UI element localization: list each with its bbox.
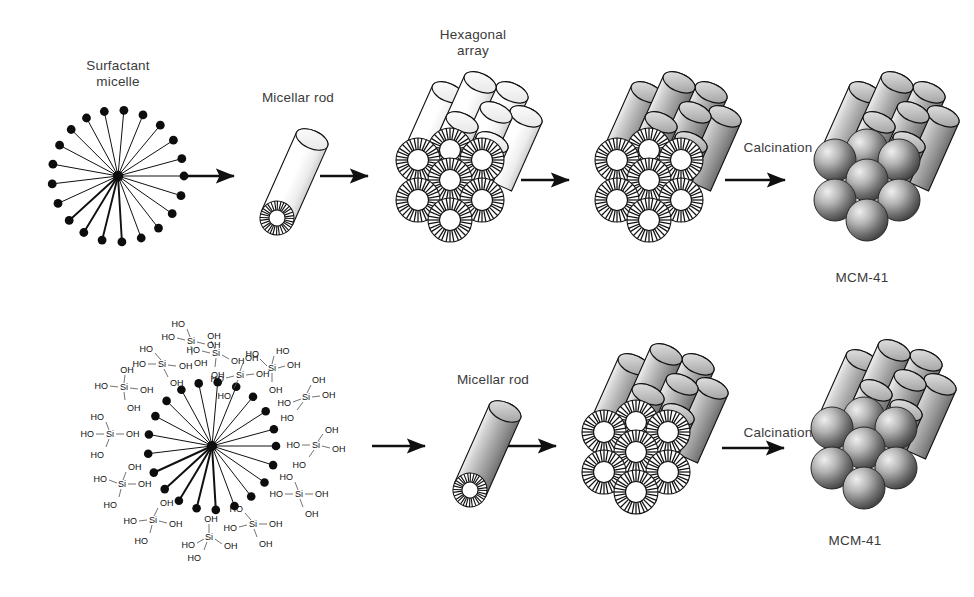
svg-text:HO: HO bbox=[172, 319, 186, 329]
svg-text:HO: HO bbox=[281, 413, 295, 423]
label-hexagonal-array: Hexagonal array bbox=[418, 27, 528, 59]
silicate-unit: Si HO HO OH HO bbox=[81, 412, 140, 460]
svg-text:HO: HO bbox=[182, 540, 196, 550]
label-micellar-rod-top: Micellar rod bbox=[243, 90, 353, 106]
svg-text:HO: HO bbox=[211, 374, 225, 384]
svg-text:Si: Si bbox=[106, 429, 114, 439]
mcm41-synthesis-figure: Surfactant micelle Micellar rod Hexagona… bbox=[0, 0, 974, 597]
svg-text:OH: OH bbox=[245, 353, 259, 363]
svg-text:OH: OH bbox=[315, 489, 329, 499]
svg-text:OH: OH bbox=[332, 444, 346, 454]
silicate-unit: Si OH HO OH HO bbox=[278, 375, 336, 423]
arrow-group bbox=[186, 176, 785, 448]
svg-text:Si: Si bbox=[212, 348, 220, 358]
silicate-coated-bundle-glyph bbox=[595, 67, 744, 242]
svg-text:OH: OH bbox=[138, 479, 152, 489]
svg-text:HO: HO bbox=[224, 523, 238, 533]
pore-spheres bbox=[811, 397, 917, 509]
label-calcination-bottom: Calcination bbox=[723, 425, 833, 441]
svg-text:HO: HO bbox=[135, 536, 149, 546]
svg-text:OH: OH bbox=[287, 360, 301, 370]
svg-text:OH: OH bbox=[269, 519, 283, 529]
silicate-unit: Si HO HO OH OH bbox=[162, 319, 221, 368]
svg-text:HO: HO bbox=[133, 359, 147, 369]
svg-text:Si: Si bbox=[120, 382, 128, 392]
svg-text:Si: Si bbox=[158, 359, 166, 369]
svg-text:HO: HO bbox=[218, 391, 232, 401]
svg-text:OH: OH bbox=[140, 385, 154, 395]
silicate-unit: Si OH HO OH HO bbox=[211, 353, 270, 401]
svg-text:OH: OH bbox=[207, 340, 221, 350]
svg-text:OH: OH bbox=[160, 498, 174, 508]
svg-text:Si: Si bbox=[149, 515, 157, 525]
svg-text:HO: HO bbox=[278, 398, 292, 408]
svg-text:OH: OH bbox=[211, 370, 225, 380]
label-mcm41-bottom: MCM-41 bbox=[805, 533, 905, 549]
silicate-units-group: Si HO HO OH OH Si OH HO OH OH Si HO OH bbox=[81, 319, 346, 563]
svg-text:OH: OH bbox=[170, 378, 184, 388]
svg-text:HO: HO bbox=[270, 489, 284, 499]
svg-text:OH: OH bbox=[259, 539, 273, 549]
svg-text:Si: Si bbox=[187, 336, 195, 346]
silicate-unit: Si HO HO OH OH bbox=[133, 344, 193, 388]
svg-text:Si: Si bbox=[249, 519, 257, 529]
svg-text:OH: OH bbox=[312, 375, 326, 385]
silicate-unit: Si OH HO OH HO bbox=[287, 425, 346, 470]
hexagonal-array-glyph bbox=[396, 67, 545, 242]
svg-text:Si: Si bbox=[268, 363, 276, 373]
svg-text:OH: OH bbox=[120, 365, 134, 375]
svg-text:Si: Si bbox=[295, 489, 303, 499]
svg-text:Si: Si bbox=[205, 532, 213, 542]
svg-text:Si: Si bbox=[302, 392, 310, 402]
silicate-unit: Si OH HO OH OH bbox=[187, 331, 245, 380]
silicate-micelle-glyph bbox=[144, 378, 280, 514]
svg-text:HO: HO bbox=[104, 500, 118, 510]
svg-text:Si: Si bbox=[312, 440, 320, 450]
svg-text:HO: HO bbox=[230, 504, 244, 514]
svg-text:HO: HO bbox=[276, 346, 290, 356]
label-micellar-rod-bottom: Micellar rod bbox=[438, 372, 548, 388]
svg-text:OH: OH bbox=[231, 356, 245, 366]
svg-text:HO: HO bbox=[188, 553, 202, 563]
silicate-unit: Si OH HO OH HO bbox=[124, 498, 183, 546]
svg-text:OH: OH bbox=[325, 425, 339, 435]
svg-text:OH: OH bbox=[128, 462, 142, 472]
svg-text:OH: OH bbox=[169, 519, 183, 529]
svg-text:OH: OH bbox=[204, 514, 218, 524]
svg-text:HO: HO bbox=[81, 429, 95, 439]
svg-text:OH: OH bbox=[322, 390, 336, 400]
mcm41-glyph-bottom bbox=[811, 335, 959, 509]
svg-text:OH: OH bbox=[126, 429, 140, 439]
svg-text:HO: HO bbox=[246, 349, 260, 359]
svg-text:Si: Si bbox=[118, 479, 126, 489]
svg-text:HO: HO bbox=[91, 412, 105, 422]
svg-text:OH: OH bbox=[207, 331, 221, 341]
svg-text:OH: OH bbox=[194, 358, 208, 368]
svg-text:OH: OH bbox=[305, 509, 319, 519]
silicate-unit: Si OH HO OH HO bbox=[182, 514, 238, 563]
silicate-unit: Si HO HO OH OH bbox=[224, 504, 283, 549]
svg-text:OH: OH bbox=[256, 369, 270, 379]
svg-text:OH: OH bbox=[127, 403, 141, 413]
surfactant-micelle-glyph bbox=[48, 106, 189, 246]
svg-text:HO: HO bbox=[187, 345, 201, 355]
svg-text:OH: OH bbox=[269, 385, 283, 395]
svg-text:HO: HO bbox=[95, 381, 109, 391]
svg-text:HO: HO bbox=[293, 460, 307, 470]
svg-text:HO: HO bbox=[94, 474, 108, 484]
svg-text:Si: Si bbox=[236, 370, 244, 380]
svg-text:HO: HO bbox=[140, 344, 154, 354]
silicate-unit: Si HO OH OH HO bbox=[246, 346, 301, 395]
micellar-rod-glyph bbox=[255, 124, 332, 240]
mcm41-glyph-top bbox=[814, 67, 962, 241]
label-surfactant-micelle: Surfactant micelle bbox=[58, 58, 178, 90]
label-mcm41-top: MCM-41 bbox=[812, 270, 912, 286]
label-calcination-top: Calcination bbox=[723, 140, 833, 156]
svg-text:HO: HO bbox=[280, 472, 294, 482]
svg-text:OH: OH bbox=[224, 541, 238, 551]
svg-text:HO: HO bbox=[91, 450, 105, 460]
silicate-unit: Si HO HO OH OH bbox=[270, 472, 329, 519]
svg-text:HO: HO bbox=[162, 332, 176, 342]
svg-text:OH: OH bbox=[179, 361, 193, 371]
micellar-rod-gray-glyph bbox=[448, 396, 525, 512]
